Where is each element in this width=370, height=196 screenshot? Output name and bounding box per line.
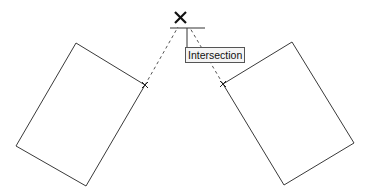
endpoint-marker-right — [220, 81, 226, 87]
endpoint-marker-left — [142, 82, 148, 88]
intersection-snap-icon — [175, 12, 186, 23]
extension-guide-left — [145, 27, 178, 85]
left-rectangle[interactable] — [16, 43, 145, 186]
snap-tooltip: Intersection — [185, 47, 245, 63]
right-rectangle[interactable] — [223, 42, 354, 185]
drawing-canvas[interactable] — [0, 0, 370, 196]
